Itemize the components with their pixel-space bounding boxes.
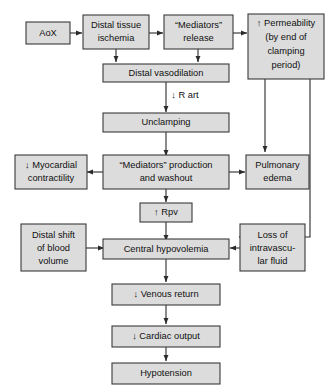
node-myocardial-contractility: ↓ Myocardial contractility: [15, 155, 87, 189]
node-mediators-release-line-0: “Mediators”: [175, 20, 222, 30]
node-distal-shift-line-2: volume: [39, 256, 69, 266]
node-cardiac-output-line-0: ↓ Cardiac output: [132, 331, 200, 341]
flowchart-figure: ↓ R art AoX Distal tissue ischemia “Medi…: [0, 0, 332, 388]
node-distal-tissue-ischemia: Distal tissue ischemia: [83, 15, 149, 49]
node-distal-tissue-ischemia-line-0: Distal tissue: [91, 20, 141, 30]
node-central-hypovolemia-line-0: Central hypovolemia: [124, 244, 210, 254]
node-mediators-release-line-1: release: [183, 33, 214, 43]
node-pulmonary-edema: Pulmonary edema: [246, 155, 309, 189]
node-aox: AoX: [26, 22, 70, 44]
node-distal-shift: Distal shift of blood volume: [21, 224, 86, 271]
node-myocardial-contractility-line-1: contractility: [28, 173, 75, 183]
node-loss-intravascular-fluid: Loss of intravascu- lar fluid: [240, 224, 305, 271]
node-venous-return-line-0: ↓ Venous return: [133, 289, 198, 299]
node-rpv-line-0: ↑ Rpv: [154, 207, 178, 217]
node-distal-shift-line-0: Distal shift: [32, 230, 75, 240]
node-loss-intravascular-fluid-line-0: Loss of: [258, 230, 288, 240]
node-unclamping: Unclamping: [103, 113, 229, 132]
node-venous-return: ↓ Venous return: [112, 284, 220, 305]
node-permeability-line-0: ↑ Permeability: [257, 18, 316, 28]
node-hypotension-line-0: Hypotension: [140, 368, 192, 378]
node-loss-intravascular-fluid-line-1: intravascu-: [250, 243, 295, 253]
node-distal-tissue-ischemia-line-1: ischemia: [98, 33, 136, 43]
node-central-hypovolemia: Central hypovolemia: [103, 239, 229, 259]
node-hypotension: Hypotension: [112, 363, 220, 384]
node-rpv: ↑ Rpv: [140, 203, 192, 222]
node-mediators-production: “Mediators” production and washout: [103, 155, 229, 189]
node-cardiac-output: ↓ Cardiac output: [112, 326, 220, 347]
node-permeability-line-1: (by end of: [265, 32, 307, 42]
node-pulmonary-edema-line-0: Pulmonary: [255, 160, 300, 170]
edge-label-r-art: ↓ R art: [171, 90, 199, 100]
node-permeability-line-2: clamping: [267, 46, 304, 56]
node-mediators-production-line-0: “Mediators” production: [119, 160, 212, 170]
node-distal-vasodilation-line-0: Distal vasodilation: [129, 68, 204, 78]
node-distal-vasodilation: Distal vasodilation: [103, 64, 229, 82]
node-myocardial-contractility-line-0: ↓ Myocardial: [25, 160, 77, 170]
flowchart-canvas: ↓ R art AoX Distal tissue ischemia “Medi…: [0, 0, 332, 388]
node-permeability: ↑ Permeability (by end of clamping perio…: [248, 14, 324, 79]
node-pulmonary-edema-line-1: edema: [263, 173, 292, 183]
node-mediators-production-line-1: and washout: [140, 173, 193, 183]
node-distal-shift-line-1: of blood: [37, 243, 70, 253]
node-aox-line-0: AoX: [39, 28, 57, 38]
node-loss-intravascular-fluid-line-2: lar fluid: [258, 256, 288, 266]
node-permeability-line-3: period): [272, 60, 301, 70]
node-unclamping-line-0: Unclamping: [141, 117, 190, 127]
node-mediators-release: “Mediators” release: [164, 15, 233, 49]
